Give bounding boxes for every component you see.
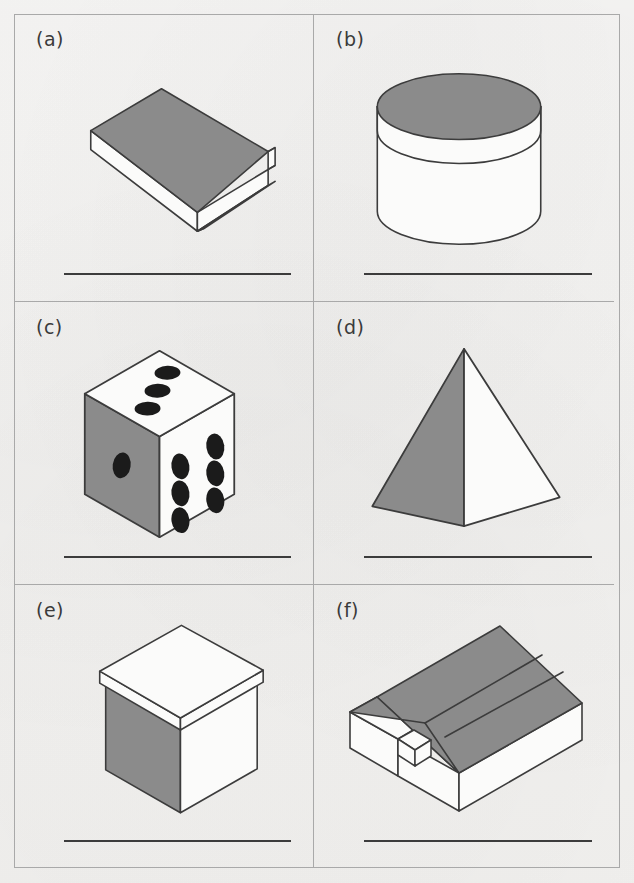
panel-d: (d): [314, 302, 614, 585]
panel-c: (c): [14, 302, 314, 585]
worksheet-page: (a): [0, 0, 634, 883]
panel-b: (b): [314, 14, 614, 302]
answer-line-d[interactable]: [364, 556, 592, 558]
shape-illustration-matchbox: [314, 585, 614, 868]
panel-e: (e): [14, 585, 314, 868]
answer-line-f[interactable]: [364, 840, 592, 842]
shape-illustration-cylinder: [314, 14, 614, 301]
answer-line-c[interactable]: [64, 556, 291, 558]
panel-a: (a): [14, 14, 314, 302]
shape-illustration-box-with-lid: [14, 585, 313, 868]
answer-line-e[interactable]: [64, 840, 291, 842]
shape-illustration-die: [14, 302, 313, 584]
shape-illustration-book: [14, 14, 313, 301]
panel-grid: (a): [14, 14, 620, 868]
shape-illustration-pyramid: [314, 302, 614, 584]
panel-f: (f): [314, 585, 614, 868]
answer-line-a[interactable]: [64, 273, 291, 275]
answer-line-b[interactable]: [364, 273, 592, 275]
